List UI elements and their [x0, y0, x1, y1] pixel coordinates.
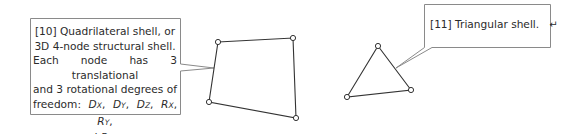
node-icon: [206, 99, 211, 104]
tri-callout-text: [11] Triangular shell.↵: [430, 17, 548, 33]
dof-subscript: X: [168, 101, 173, 110]
quad-nodes: [206, 35, 298, 120]
dof-symbol: D: [89, 98, 97, 110]
node-icon: [344, 94, 349, 99]
arrow-right-icon: →: [124, 131, 133, 134]
quad-callout-line: [10] Quadrilateral shell, or: [33, 24, 177, 39]
dof-symbol: R: [97, 115, 104, 127]
quad-callout-dof-line: freedom: DX, DY, DZ, RX, RY,: [33, 97, 177, 130]
quad-callout-last-line: and RZ. →: [33, 130, 177, 134]
node-icon: [215, 39, 220, 44]
dof-subscript: Z: [145, 101, 150, 110]
tri-callout-box: [396, 5, 551, 69]
tri-callout-label: [11] Triangular shell.: [430, 18, 539, 30]
node-icon: [375, 43, 380, 48]
triangular-shell-element: [347, 46, 411, 97]
dof-symbol: D: [137, 98, 145, 110]
freedom-label: freedom:: [33, 98, 89, 110]
node-icon: [293, 115, 298, 120]
dof-symbol: D: [113, 98, 121, 110]
and-label: and: [78, 131, 101, 134]
return-arrow-icon: ↵: [549, 18, 557, 33]
quadrilateral-shell-element: [209, 38, 296, 118]
quad-callout-line: and 3 rotational degrees of: [33, 82, 177, 97]
dof-subscript: Y: [105, 118, 110, 127]
node-icon: [408, 87, 413, 92]
quad-callout-text: [10] Quadrilateral shell, or 3D 4-node s…: [33, 24, 177, 134]
quad-callout-line: 3D 4-node structural shell.: [33, 39, 177, 54]
dof-subscript: X: [97, 101, 102, 110]
node-icon: [290, 35, 295, 40]
dof-subscript: Y: [121, 101, 126, 110]
quad-callout-line: Each node has 3 translational: [33, 53, 177, 82]
